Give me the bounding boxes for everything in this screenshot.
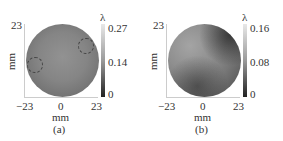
colorbar-tick-mid-b: 0.08 [250, 57, 269, 68]
colorbar-tick-max-a: 0.27 [108, 23, 127, 34]
colorbar-label-a: λ [100, 12, 105, 23]
y-tick-top: 23 [153, 20, 164, 31]
panel-a: 23 mm −23 0 23 mm (a) λ 0.27 0.14 0 [0, 0, 141, 141]
panel-b: 23 mm −23 0 23 mm (b) λ 0.16 0.08 0 [142, 0, 283, 141]
colorbar-b [243, 24, 247, 97]
panel-label-b: (b) [195, 124, 208, 135]
x-tick-max: 23 [233, 101, 244, 112]
x-axis-label: mm [52, 112, 69, 123]
colorbar-tick-max-b: 0.16 [250, 23, 269, 34]
highlight-circle-upper-right [78, 38, 94, 54]
colorbar-tick-mid-a: 0.14 [108, 57, 127, 68]
colorbar-a [101, 24, 105, 97]
x-tick-max: 23 [91, 101, 102, 112]
heatmap-shade-b [168, 24, 241, 97]
panel-label-a: (a) [53, 124, 65, 135]
colorbar-tick-min-b: 0 [250, 89, 256, 100]
x-tick-min: −23 [158, 101, 175, 112]
y-axis-label: mm [6, 53, 17, 70]
colorbar-label-b: λ [242, 12, 247, 23]
plot-area-a [24, 24, 98, 98]
colorbar-tick-min-a: 0 [108, 89, 114, 100]
x-axis-label: mm [194, 112, 211, 123]
highlight-circle-left [27, 57, 43, 73]
y-axis-label: mm [148, 53, 159, 70]
x-tick-min: −23 [16, 101, 33, 112]
y-tick-top: 23 [11, 20, 22, 31]
plot-area-b [166, 24, 240, 98]
